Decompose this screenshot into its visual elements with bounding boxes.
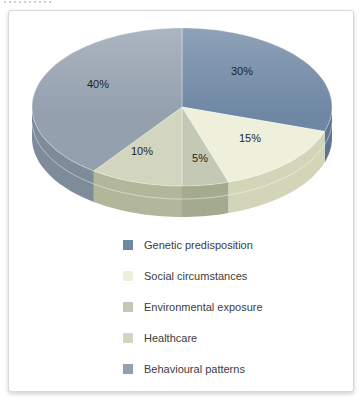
legend-item-behavioural: Behavioural patterns bbox=[123, 362, 263, 375]
legend-swatch-behavioural bbox=[123, 364, 133, 374]
legend-swatch-healthcare bbox=[123, 333, 133, 343]
legend-label-environmental: Environmental exposure bbox=[144, 301, 263, 313]
legend-item-genetic: Genetic predisposition bbox=[123, 238, 263, 251]
legend-swatch-genetic bbox=[123, 240, 133, 250]
legend-label-behavioural: Behavioural patterns bbox=[144, 363, 245, 375]
legend-item-healthcare: Healthcare bbox=[123, 331, 263, 344]
chart-legend: Genetic predisposition Social circumstan… bbox=[123, 238, 263, 375]
slice-value-genetic: 30% bbox=[231, 65, 253, 77]
legend-swatch-environmental bbox=[123, 302, 133, 312]
legend-label-social: Social circumstances bbox=[144, 270, 247, 282]
chart-card: 30% 15% 5% 10% 40% Genetic predispositio… bbox=[8, 10, 354, 392]
legend-item-environmental: Environmental exposure bbox=[123, 300, 263, 313]
legend-swatch-social bbox=[123, 271, 133, 281]
legend-item-social: Social circumstances bbox=[123, 269, 263, 282]
slice-value-behavioural: 40% bbox=[87, 78, 109, 90]
slice-value-social: 15% bbox=[239, 132, 261, 144]
slice-value-healthcare: 10% bbox=[131, 145, 153, 157]
pie-chart-svg bbox=[9, 11, 353, 251]
legend-label-healthcare: Healthcare bbox=[144, 332, 197, 344]
slice-value-environmental: 5% bbox=[192, 152, 208, 164]
legend-label-genetic: Genetic predisposition bbox=[144, 239, 253, 251]
cropped-top-text bbox=[4, 1, 54, 3]
